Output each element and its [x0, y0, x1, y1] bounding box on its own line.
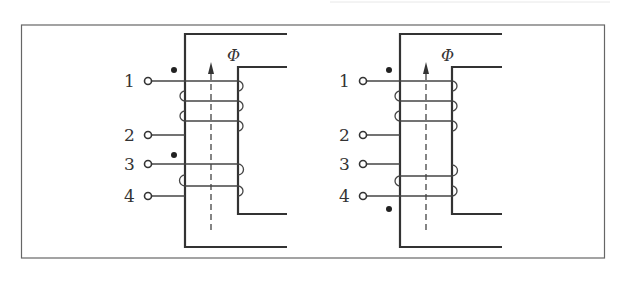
figure-frame [22, 25, 605, 258]
terminal-2 [145, 132, 152, 139]
terminal-3 [145, 161, 152, 168]
flux-label: Φ [441, 46, 454, 65]
terminal-label-1: 1 [124, 71, 135, 91]
terminal-label-1: 1 [339, 71, 350, 91]
terminal-label-4: 4 [124, 186, 135, 206]
terminal-1 [360, 78, 367, 85]
terminal-1 [145, 78, 152, 85]
core-inner-leg [452, 67, 502, 214]
polarity-dot-1 [171, 67, 177, 73]
panel-left: Φ 1 2 3 4 [124, 34, 287, 247]
terminal-label-4: 4 [339, 186, 350, 206]
flux-arrow-icon [208, 62, 214, 74]
polarity-dot-4 [386, 206, 392, 212]
polarity-dot-1 [386, 67, 392, 73]
terminal-4 [360, 193, 367, 200]
terminal-4 [145, 193, 152, 200]
flux-label: Φ [227, 46, 240, 65]
terminal-3 [360, 161, 367, 168]
terminal-label-2: 2 [124, 125, 135, 145]
panel-right: Φ 1 2 3 4 [339, 34, 502, 247]
terminal-2 [360, 132, 367, 139]
polarity-dot-3 [171, 152, 177, 158]
terminal-label-3: 3 [124, 154, 135, 174]
core-inner-leg [238, 67, 287, 214]
terminal-label-3: 3 [339, 154, 350, 174]
terminal-label-2: 2 [339, 125, 350, 145]
transformer-dot-convention-diagram: Φ 1 2 3 4 Φ 1 2 [0, 0, 628, 282]
flux-arrow-icon [423, 62, 429, 74]
